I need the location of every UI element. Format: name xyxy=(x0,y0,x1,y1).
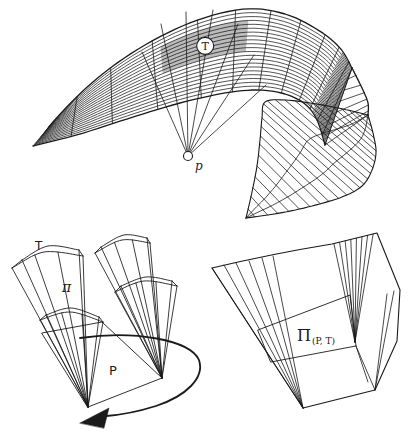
figure-canvas: p T T π P Π (P, T) xyxy=(0,0,413,437)
union-polytope-figure: Π (P, T) xyxy=(212,233,400,408)
pyramid-patch-label: T xyxy=(34,239,43,253)
pyramid-label: π xyxy=(61,279,72,295)
union-label-main: Π xyxy=(297,326,311,345)
pyramid-wireframes xyxy=(12,235,177,407)
viewpoint-dot xyxy=(184,152,193,161)
polygon-label: P xyxy=(109,363,117,378)
viewpoint-label: p xyxy=(195,159,203,173)
surface-mesh-figure: p T xyxy=(33,9,376,218)
pyramids-figure: T π P xyxy=(12,235,200,428)
union-label-subscript: (P, T) xyxy=(312,336,335,346)
triangle-label: T xyxy=(202,40,210,53)
union-wireframe xyxy=(212,233,400,408)
